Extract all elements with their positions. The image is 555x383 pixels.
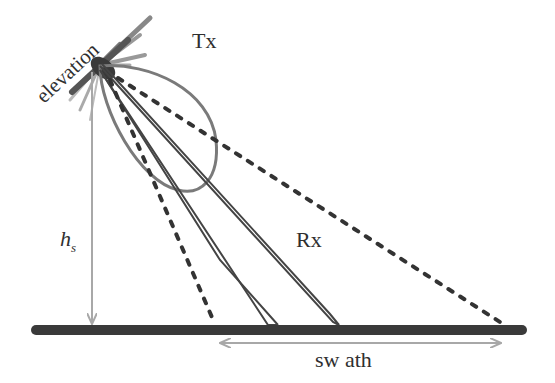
rx-beam [100,64,339,325]
sar-geometry-diagram: elevation Tx Rx hs sw ath [0,0,555,383]
swath-label: sw ath [315,347,372,372]
rx-label: Rx [296,227,322,252]
tx-label: Tx [192,28,216,53]
height-label: hs [60,226,76,255]
